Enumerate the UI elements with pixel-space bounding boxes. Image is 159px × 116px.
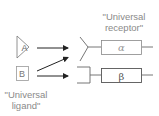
receptor-label-line2: receptor" — [96, 22, 152, 33]
receptor-alpha: α — [80, 37, 153, 61]
ligand-label-line1: "Universal — [0, 89, 52, 100]
arrow-b-to-alpha — [37, 58, 68, 72]
ligand-a-label: A — [22, 43, 28, 53]
receptor-label-line1: "Universal — [96, 11, 152, 22]
receptor-alpha-label: α — [118, 42, 125, 53]
universal-receptor-label: "Universal receptor" — [96, 11, 152, 33]
universal-ligand-label: "Universal ligand" — [0, 89, 52, 111]
receptor-beta-label: β — [119, 71, 125, 82]
y-binding-site-icon — [80, 37, 88, 61]
ligand-b-label: B — [19, 69, 25, 79]
bracket-binding-site-icon — [77, 67, 90, 83]
ligand-label-line2: ligand" — [0, 100, 52, 111]
ligand-b-square: B — [17, 67, 29, 81]
receptor-beta: β — [77, 67, 153, 83]
ligand-a-triangle: A — [17, 36, 29, 58]
